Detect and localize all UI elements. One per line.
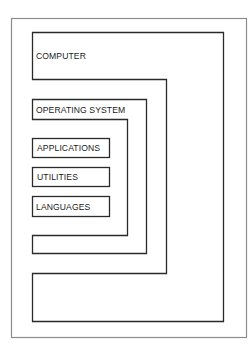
- languages-label: LANGUAGES: [36, 202, 91, 212]
- languages-box: LANGUAGES: [33, 197, 110, 217]
- layers-diagram: COMPUTER OPERATING SYSTEM APPLICATIONS U…: [0, 0, 251, 347]
- computer-label: COMPUTER: [36, 51, 86, 61]
- utilities-box: UTILITIES: [33, 168, 110, 187]
- applications-box: APPLICATIONS: [33, 139, 110, 158]
- applications-label: APPLICATIONS: [37, 143, 100, 153]
- operating-system-label: OPERATING SYSTEM: [36, 105, 125, 115]
- utilities-label: UTILITIES: [37, 172, 78, 182]
